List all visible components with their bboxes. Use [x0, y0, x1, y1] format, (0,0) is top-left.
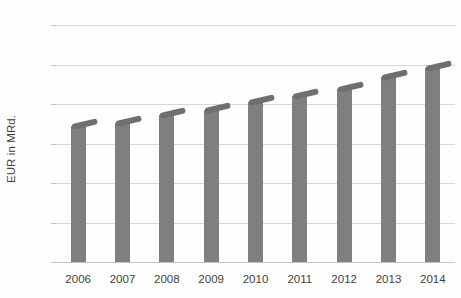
gridline-y-0 [56, 262, 455, 263]
plot-area: 0510152025302006200720082009201020112012… [56, 25, 455, 262]
y-tick-mark-10 [51, 183, 56, 184]
bar-body [425, 68, 440, 262]
bar-2007[interactable] [115, 123, 130, 262]
gridline-y-30 [56, 25, 455, 26]
bar-2014[interactable] [425, 68, 440, 262]
x-tick-label-2011: 2011 [287, 273, 312, 285]
x-tick-label-2010: 2010 [243, 273, 269, 285]
x-tick-label-2012: 2012 [331, 273, 357, 285]
gridline-y-25 [56, 65, 455, 66]
y-tick-mark-5 [51, 223, 56, 224]
x-tick-label-2009: 2009 [198, 273, 224, 285]
x-tick-label-2007: 2007 [110, 273, 136, 285]
bar-2012[interactable] [337, 89, 352, 262]
bar-2009[interactable] [204, 110, 219, 262]
y-tick-mark-30 [51, 25, 56, 26]
bar-body [292, 96, 307, 262]
bar-body [71, 126, 86, 262]
y-tick-mark-25 [51, 65, 56, 66]
bar-2008[interactable] [159, 115, 174, 262]
bar-2010[interactable] [248, 102, 263, 262]
bar-body [115, 123, 130, 262]
y-tick-mark-0 [51, 262, 56, 263]
bar-2006[interactable] [71, 126, 86, 262]
bar-chart: EUR in MRd. 0510152025302006200720082009… [0, 0, 461, 298]
x-tick-label-2008: 2008 [154, 273, 180, 285]
y-tick-mark-20 [51, 104, 56, 105]
y-axis-title: EUR in MRd. [0, 0, 22, 298]
bar-2011[interactable] [292, 96, 307, 262]
bar-body [381, 77, 396, 262]
bar-body [248, 102, 263, 262]
x-tick-label-2013: 2013 [376, 273, 402, 285]
x-tick-label-2006: 2006 [65, 273, 91, 285]
bar-body [204, 110, 219, 262]
bar-body [337, 89, 352, 262]
bar-2013[interactable] [381, 77, 396, 262]
x-tick-label-2014: 2014 [420, 273, 446, 285]
y-tick-mark-15 [51, 144, 56, 145]
bar-body [159, 115, 174, 262]
